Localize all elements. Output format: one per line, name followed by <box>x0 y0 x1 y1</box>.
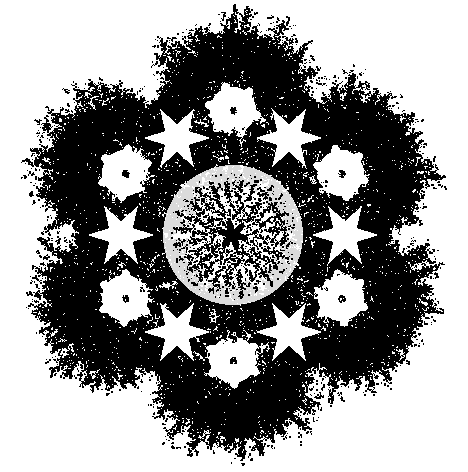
fractal-snowflake-image <box>0 0 468 472</box>
fractal-artwork-canvas: Fractal Snowflake Kaleidoscope <box>0 0 468 472</box>
